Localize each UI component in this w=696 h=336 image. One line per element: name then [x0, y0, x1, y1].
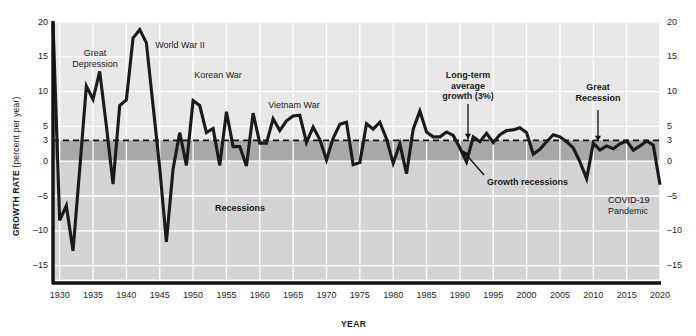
y-tick-label-right: 15 — [667, 52, 691, 61]
y-tick-label-right: –10 — [667, 226, 691, 235]
x-tick-label: 2005 — [543, 291, 577, 300]
x-tick-label: 1930 — [43, 291, 77, 300]
x-tick-label: 1985 — [410, 291, 444, 300]
x-tick-label: 1990 — [443, 291, 477, 300]
x-tick-label: 1955 — [209, 291, 243, 300]
x-tick-label: 1975 — [343, 291, 377, 300]
x-tick-label: 1995 — [476, 291, 510, 300]
y-tick-label-right: 5 — [667, 122, 691, 131]
x-tick-label: 2010 — [576, 291, 610, 300]
x-tick-label: 1940 — [109, 291, 143, 300]
annotation-growth-recessions: Growth recessions — [487, 177, 568, 188]
annotation-long-term-average-growth: Long-term average growth (3%) — [408, 70, 528, 102]
x-tick-label: 1945 — [143, 291, 177, 300]
y-tick-label-left: 3 — [24, 136, 48, 145]
y-tick-label-left: 20 — [24, 18, 48, 27]
y-tick-label-right: 10 — [667, 87, 691, 96]
y-tick-label-right: –15 — [667, 261, 691, 270]
y-tick-label-right: 0 — [667, 157, 691, 166]
chart-container: GROWTH RATE (percent per year) YEAR 2020… — [0, 0, 696, 336]
y-tick-label-left: –5 — [24, 192, 48, 201]
annotation-great-depression: Great Depression — [35, 48, 155, 69]
x-tick-label: 2000 — [510, 291, 544, 300]
y-tick-label-left: 10 — [24, 87, 48, 96]
x-tick-label: 2020 — [643, 291, 677, 300]
x-tick-label: 1980 — [376, 291, 410, 300]
y-tick-label-right: –5 — [667, 192, 691, 201]
y-tick-label-right: 3 — [667, 136, 691, 145]
y-tick-label-left: –10 — [24, 226, 48, 235]
x-tick-label: 1970 — [309, 291, 343, 300]
y-tick-label-left: 5 — [24, 122, 48, 131]
annotation-korean-war: Korean War — [158, 70, 278, 81]
chart-overlay: 202015151010553300–5–5–10–10–15–15193019… — [0, 0, 696, 336]
y-tick-label-right: 20 — [667, 18, 691, 27]
x-tick-label: 1935 — [76, 291, 110, 300]
x-tick-label: 2015 — [610, 291, 644, 300]
annotation-great-recession: Great Recession — [538, 82, 658, 103]
annotation-covid-19-pandemic: COVID-19 Pandemic — [608, 195, 650, 216]
annotation-recessions: Recessions — [180, 203, 300, 214]
x-tick-label: 1960 — [243, 291, 277, 300]
annotation-world-war-ii: World War II — [120, 40, 240, 51]
y-tick-label-left: –15 — [24, 261, 48, 270]
annotation-vietnam-war: Vietnam War — [234, 100, 354, 111]
x-tick-label: 1965 — [276, 291, 310, 300]
x-tick-label: 1950 — [176, 291, 210, 300]
y-tick-label-left: 0 — [24, 157, 48, 166]
